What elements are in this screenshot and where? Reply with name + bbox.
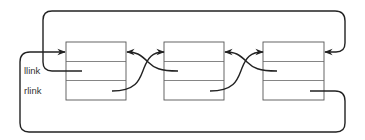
linked-list-diagram: llink rlink (0, 0, 365, 140)
llink-label: llink (24, 65, 41, 76)
rlink-label: rlink (24, 85, 42, 96)
